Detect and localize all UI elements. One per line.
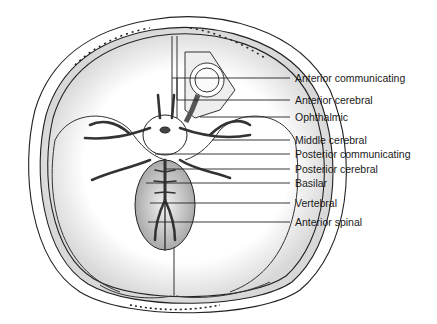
label-posterior-communicating: Posterior communicating [295,148,411,160]
label-posterior-cerebral: Posterior cerebral [295,163,378,175]
label-anterior-communicating: Anterior communicating [295,72,405,84]
label-anterior-spinal: Anterior spinal [295,216,362,228]
label-ophthalmic: Ophthalmic [295,111,348,123]
skull-base-illustration [0,0,437,324]
label-anterior-cerebral: Anterior cerebral [295,94,373,106]
label-vertebral: Vertebral [295,197,337,209]
label-basilar: Basilar [295,177,327,189]
brain-artery-diagram: Anterior communicating Anterior cerebral… [0,0,437,324]
label-middle-cerebral: Middle cerebral [295,134,367,146]
